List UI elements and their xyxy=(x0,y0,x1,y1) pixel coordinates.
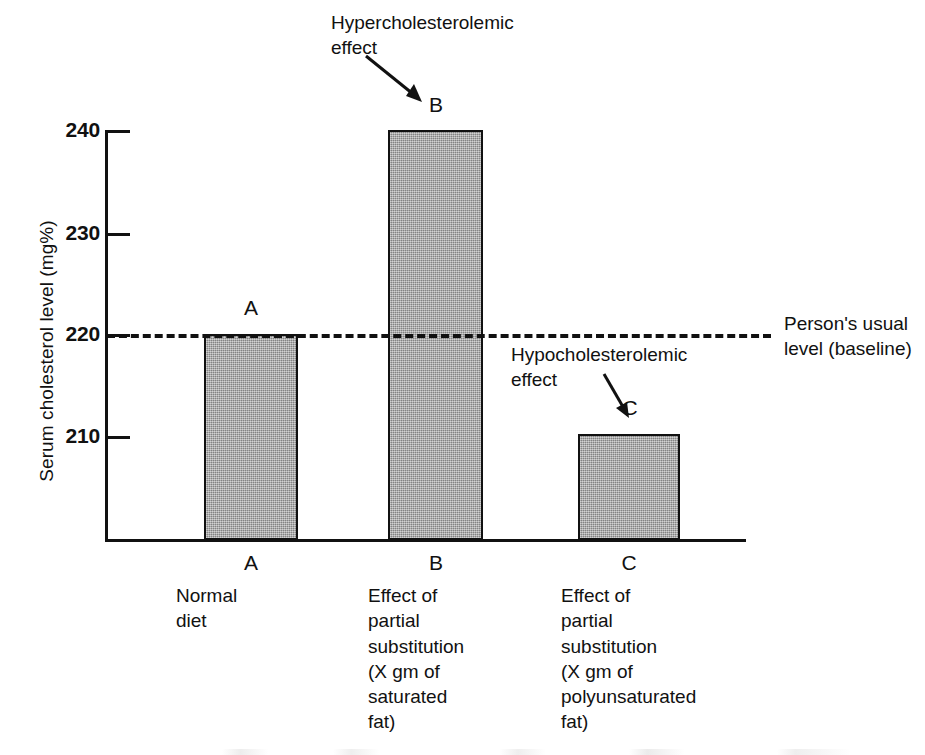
y-tick-mark-230 xyxy=(106,233,130,236)
bar-a-top-label: A xyxy=(221,296,281,320)
category-letter-b: B xyxy=(396,551,476,575)
y-tick-label-240: 240 xyxy=(48,118,100,142)
y-tick-label-210: 210 xyxy=(48,424,100,448)
category-description-a: Normal diet xyxy=(176,583,237,634)
category-description-c: Effect of partial substitution (X gm of … xyxy=(561,583,696,735)
y-tick-label-230: 230 xyxy=(48,221,100,245)
y-tick-mark-210 xyxy=(106,436,130,439)
baseline-note-label: Person's usual level (baseline) xyxy=(784,312,912,361)
baseline-reference-line xyxy=(107,334,771,338)
scan-artifact-strip xyxy=(0,749,925,755)
bar-a xyxy=(204,334,298,540)
arrow-to-bar-c-icon xyxy=(596,370,656,424)
category-letter-c: C xyxy=(589,551,669,575)
y-tick-mark-240 xyxy=(106,130,130,133)
bar-c xyxy=(578,434,680,540)
y-tick-label-220: 220 xyxy=(48,322,100,346)
arrow-to-bar-b-icon xyxy=(360,50,450,110)
category-description-b: Effect of partial substitution (X gm of … xyxy=(368,583,464,735)
bar-chart-figure: Serum cholesterol level (mg%) 240 230 22… xyxy=(0,0,925,755)
category-letter-a: A xyxy=(211,551,291,575)
